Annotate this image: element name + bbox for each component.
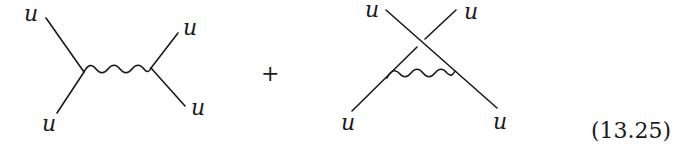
particle-label-d1-bottom-left: u (42, 113, 56, 135)
particle-label-d2-bottom-left: u (341, 112, 355, 134)
fermion-line-top-right-upper-segment (425, 10, 456, 39)
equation-number: (13.25) (591, 120, 671, 142)
particle-label-d2-top-left: u (365, 0, 379, 21)
particle-label-d2-bottom-right: u (493, 111, 507, 133)
plus-operator: + (261, 63, 279, 85)
fermion-line-bottom-right (151, 68, 185, 106)
diagram-2 (352, 10, 497, 111)
particle-label-d1-top-left: u (24, 3, 38, 25)
particle-label-d2-top-right: u (464, 1, 478, 23)
fermion-line-bottom-left-lower-segment (352, 47, 417, 111)
wavy-propagator-crossed (387, 69, 455, 78)
fermion-line-top-right (151, 33, 178, 68)
fermion-line-top-left-to-bottom-right (386, 10, 497, 108)
diagram-1 (46, 18, 185, 113)
wavy-propagator (84, 65, 151, 73)
particle-label-d1-bottom-right: u (191, 97, 205, 119)
particle-label-d1-top-right: u (183, 17, 197, 39)
fermion-line-bottom-left (57, 72, 84, 113)
fermion-line-top-left (46, 18, 84, 72)
equation-canvas: u u u u + u u u u (13.25) (0, 0, 689, 153)
